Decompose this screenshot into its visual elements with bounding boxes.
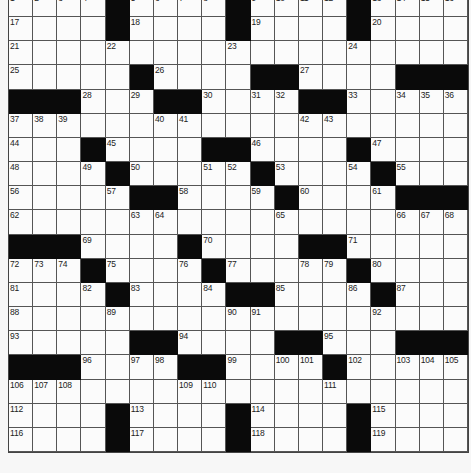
grid-cell[interactable]	[226, 331, 250, 355]
grid-cell[interactable]: 64	[154, 210, 178, 234]
grid-cell[interactable]: 102	[347, 355, 371, 379]
grid-cell[interactable]	[420, 380, 444, 404]
grid-cell[interactable]	[323, 307, 347, 331]
grid-cell[interactable]: 71	[347, 235, 371, 259]
grid-cell[interactable]	[323, 65, 347, 89]
grid-cell[interactable]: 49	[81, 162, 105, 186]
grid-cell[interactable]	[444, 259, 468, 283]
grid-cell[interactable]	[33, 210, 57, 234]
grid-cell[interactable]	[106, 210, 130, 234]
grid-cell[interactable]: 42	[299, 114, 323, 138]
grid-cell[interactable]: 66	[396, 210, 420, 234]
grid-cell[interactable]: 35	[420, 90, 444, 114]
grid-cell[interactable]	[33, 331, 57, 355]
grid-cell[interactable]: 37	[9, 114, 33, 138]
grid-cell[interactable]	[81, 17, 105, 41]
grid-cell[interactable]	[347, 114, 371, 138]
grid-cell[interactable]: 91	[251, 307, 275, 331]
grid-cell[interactable]	[444, 404, 468, 428]
grid-cell[interactable]	[275, 41, 299, 65]
grid-cell[interactable]: 96	[81, 355, 105, 379]
grid-cell[interactable]	[444, 17, 468, 41]
grid-cell[interactable]: 74	[57, 259, 81, 283]
grid-cell[interactable]: 87	[396, 283, 420, 307]
grid-cell[interactable]: 101	[299, 355, 323, 379]
grid-cell[interactable]	[154, 380, 178, 404]
grid-cell[interactable]	[33, 428, 57, 452]
grid-cell[interactable]	[371, 355, 395, 379]
grid-cell[interactable]	[81, 404, 105, 428]
grid-cell[interactable]	[130, 41, 154, 65]
grid-cell[interactable]	[347, 65, 371, 89]
grid-cell[interactable]: 89	[106, 307, 130, 331]
grid-cell[interactable]	[106, 235, 130, 259]
grid-cell[interactable]	[251, 235, 275, 259]
grid-cell[interactable]: 63	[130, 210, 154, 234]
grid-cell[interactable]: 41	[178, 114, 202, 138]
grid-cell[interactable]: 62	[9, 210, 33, 234]
grid-cell[interactable]	[57, 162, 81, 186]
grid-cell[interactable]	[33, 41, 57, 65]
grid-cell[interactable]	[178, 138, 202, 162]
grid-cell[interactable]: 10	[275, 0, 299, 17]
grid-cell[interactable]	[154, 17, 178, 41]
grid-cell[interactable]	[33, 283, 57, 307]
grid-cell[interactable]: 106	[9, 380, 33, 404]
grid-cell[interactable]	[202, 114, 226, 138]
grid-cell[interactable]: 5	[130, 0, 154, 17]
grid-cell[interactable]	[396, 41, 420, 65]
grid-cell[interactable]	[130, 114, 154, 138]
grid-cell[interactable]	[81, 331, 105, 355]
grid-cell[interactable]: 51	[202, 162, 226, 186]
grid-cell[interactable]	[371, 41, 395, 65]
grid-cell[interactable]	[81, 114, 105, 138]
grid-cell[interactable]: 107	[33, 380, 57, 404]
grid-cell[interactable]	[323, 210, 347, 234]
grid-cell[interactable]: 100	[275, 355, 299, 379]
grid-cell[interactable]	[396, 138, 420, 162]
grid-cell[interactable]	[81, 307, 105, 331]
grid-cell[interactable]	[202, 65, 226, 89]
grid-cell[interactable]: 113	[130, 404, 154, 428]
grid-cell[interactable]: 85	[275, 283, 299, 307]
grid-cell[interactable]	[57, 138, 81, 162]
grid-cell[interactable]: 33	[347, 90, 371, 114]
grid-cell[interactable]: 119	[371, 428, 395, 452]
grid-cell[interactable]: 57	[106, 186, 130, 210]
grid-cell[interactable]	[81, 380, 105, 404]
grid-cell[interactable]: 56	[9, 186, 33, 210]
grid-cell[interactable]	[226, 90, 250, 114]
grid-cell[interactable]	[275, 138, 299, 162]
grid-cell[interactable]	[178, 428, 202, 452]
grid-cell[interactable]	[226, 380, 250, 404]
grid-cell[interactable]: 70	[202, 235, 226, 259]
grid-cell[interactable]	[81, 65, 105, 89]
grid-cell[interactable]: 99	[226, 355, 250, 379]
grid-cell[interactable]	[106, 355, 130, 379]
grid-cell[interactable]: 88	[9, 307, 33, 331]
grid-cell[interactable]	[420, 259, 444, 283]
grid-cell[interactable]	[33, 307, 57, 331]
grid-cell[interactable]	[57, 331, 81, 355]
grid-cell[interactable]	[444, 307, 468, 331]
grid-cell[interactable]	[81, 210, 105, 234]
grid-cell[interactable]	[420, 404, 444, 428]
grid-cell[interactable]	[106, 331, 130, 355]
grid-cell[interactable]: 53	[275, 162, 299, 186]
grid-cell[interactable]	[202, 307, 226, 331]
grid-cell[interactable]	[396, 17, 420, 41]
grid-cell[interactable]	[154, 283, 178, 307]
grid-cell[interactable]: 109	[178, 380, 202, 404]
grid-cell[interactable]	[299, 283, 323, 307]
grid-cell[interactable]	[396, 114, 420, 138]
grid-cell[interactable]: 93	[9, 331, 33, 355]
grid-cell[interactable]: 4	[81, 0, 105, 17]
grid-cell[interactable]: 8	[202, 0, 226, 17]
grid-cell[interactable]	[275, 17, 299, 41]
grid-cell[interactable]	[202, 331, 226, 355]
grid-cell[interactable]	[444, 283, 468, 307]
grid-cell[interactable]: 68	[444, 210, 468, 234]
grid-cell[interactable]: 78	[299, 259, 323, 283]
grid-cell[interactable]: 75	[106, 259, 130, 283]
grid-cell[interactable]: 105	[444, 355, 468, 379]
